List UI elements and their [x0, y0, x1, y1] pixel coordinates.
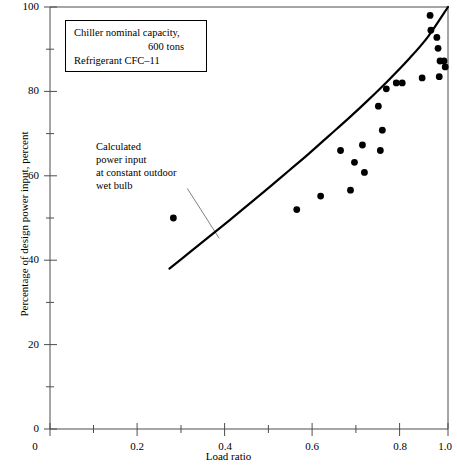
annotation-line-2: power input	[96, 153, 216, 166]
y-axis-title: Percentage of design power input, percen…	[18, 104, 30, 344]
data-point	[441, 58, 448, 65]
data-point	[393, 80, 400, 87]
annotation-line-3: at constant outdoor	[96, 166, 216, 179]
data-point	[351, 159, 358, 166]
data-point	[375, 103, 382, 110]
data-point	[361, 169, 368, 176]
data-point	[347, 187, 354, 194]
data-point	[317, 193, 324, 200]
ytick-label-100: 100	[0, 1, 39, 12]
caption-line-1: Chiller nominal capacity,	[74, 26, 198, 40]
ytick-label-80: 80	[0, 85, 39, 96]
chart-figure: 100 80 60 40 20 0 0 0.2 0.4 0.6 0.8 1.0 …	[0, 0, 457, 467]
data-point	[337, 147, 344, 154]
ytick-label-0: 0	[0, 423, 39, 434]
caption-box: Chiller nominal capacity, 600 tons Refri…	[65, 20, 207, 72]
data-point	[433, 34, 440, 41]
data-point	[170, 215, 177, 222]
caption-line-3: Refrigerant CFC‒11	[74, 54, 198, 68]
data-point	[359, 142, 366, 149]
caption-line-2: 600 tons	[74, 40, 198, 54]
x-axis-title: Load ratio	[0, 450, 457, 462]
data-point	[377, 147, 384, 154]
annotation-line-4: wet bulb	[96, 179, 216, 192]
data-point	[442, 64, 449, 71]
annotation-leader-line	[187, 188, 219, 238]
calculated-power-curve	[169, 7, 448, 269]
data-point	[419, 75, 426, 82]
annotation-line-1: Calculated	[96, 140, 216, 153]
data-point	[399, 80, 406, 87]
data-point	[436, 73, 443, 80]
data-point	[427, 27, 434, 34]
data-point	[379, 127, 386, 134]
data-point	[293, 206, 300, 213]
curve-annotation: Calculated power input at constant outdo…	[96, 140, 216, 192]
data-point	[435, 45, 442, 52]
data-point	[427, 12, 434, 19]
data-point	[383, 85, 390, 92]
